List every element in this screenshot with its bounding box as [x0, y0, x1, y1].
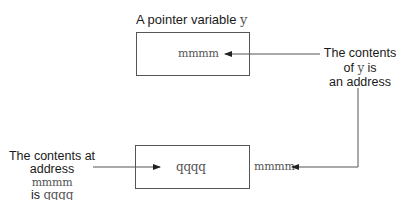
address-elbow-line [292, 88, 358, 167]
pointer-diagram: A pointer variable y mmmm The contents o… [0, 0, 405, 200]
connector-lines [0, 0, 405, 200]
